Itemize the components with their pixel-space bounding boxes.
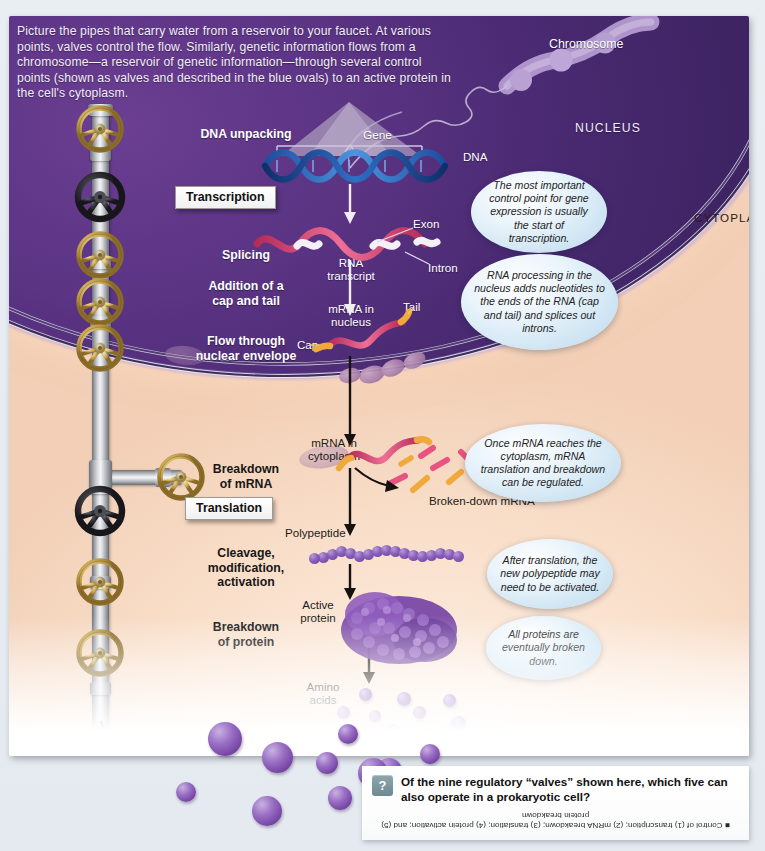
figure-page: Picture the pipes that carry water from …: [0, 0, 765, 851]
label-mrna-in-cytoplasm: mRNA in cytoplasm: [299, 436, 369, 463]
inverted-answer-text: ■ Control of (1) transcription; (2) mRNA…: [372, 809, 739, 830]
callout-mrna-cytoplasm: Once mRNA reaches the cytoplasm, mRNA tr…: [465, 424, 621, 502]
label-intron: Intron: [428, 261, 458, 274]
pipe-collar: [155, 468, 171, 487]
intro-paragraph: Picture the pipes that carry water from …: [17, 24, 454, 102]
label-exon: Exon: [413, 217, 439, 230]
question-text: Of the nine regulatory “valves” shown he…: [401, 775, 739, 804]
question-strip: ? Of the nine regulatory “valves” shown …: [362, 766, 749, 840]
pipe-top-cap: [88, 104, 113, 116]
stage-label-cap-and-tail: Addition of a cap and tail: [185, 279, 307, 308]
pipe-collar: [90, 148, 111, 161]
label-gene: Gene: [363, 129, 392, 142]
label-chromosome: Chromosome: [549, 38, 623, 51]
pipe-collar: [90, 316, 111, 329]
label-mrna-in-nucleus: mRNA in nucleus: [318, 302, 384, 329]
nucleus-label: NUCLEUS: [575, 121, 641, 135]
pipe-collar: [90, 576, 111, 589]
label-tail: Tail: [403, 300, 420, 313]
cytoplasm-label: CYTOPLASM: [694, 211, 749, 224]
pipe-collar: [90, 256, 111, 269]
label-cap: Cap: [297, 338, 318, 351]
callout-polypeptide-activation: After translation, the new polypeptide m…: [487, 539, 613, 609]
stage-label-mrna-breakdown: Breakdown of mRNA: [188, 462, 304, 491]
pipe-tee-joint: [89, 460, 112, 494]
callout-rna-processing: RNA processing in the nucleus adds nucle…: [461, 254, 618, 350]
stage-label-cleavage-modification-activation: Cleavage, modification, activation: [181, 546, 311, 590]
stage-label-splicing: Splicing: [202, 248, 290, 263]
question-mark-icon: ?: [372, 775, 393, 796]
stage-label-transcription: Transcription: [175, 186, 276, 209]
stage-label-dna-unpacking: DNA unpacking: [187, 127, 305, 142]
lower-white-fade: [9, 616, 749, 756]
label-rna-transcript: RNA transcript: [322, 256, 380, 283]
stage-label-translation: Translation: [185, 497, 273, 520]
label-polypeptide: Polypeptide: [285, 526, 346, 539]
biology-figure-panel: Picture the pipes that carry water from …: [9, 16, 749, 756]
label-dna: DNA: [463, 150, 487, 163]
callout-transcription: The most important control point for gen…: [471, 171, 607, 253]
